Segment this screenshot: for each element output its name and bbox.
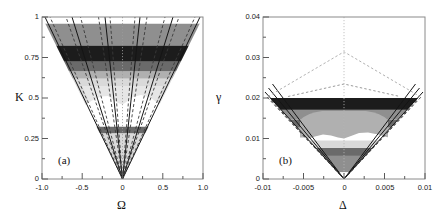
panel-a-ytick-025: 0.25 — [14, 135, 39, 143]
panel-b-inner-lens — [300, 111, 388, 138]
panel-a-ytick-0: 0 — [31, 175, 39, 183]
panel-b-ytick-001: 0.01 — [232, 135, 260, 143]
panel-a-x-axis-label: Ω — [117, 199, 126, 211]
panel-b-y-axis-label: γ — [216, 91, 221, 103]
panel-a-xtick-neg05: -0.5 — [70, 184, 94, 192]
panel-a-ytick-1: 1 — [31, 13, 39, 21]
panel-a-ytick-075: 0.75 — [14, 54, 39, 62]
panel-a-xtick-neg1: -1.0 — [30, 184, 54, 192]
panel-b-ytick-0: 0 — [252, 175, 260, 183]
panel-b-x-axis-label: Δ — [339, 199, 347, 211]
panel-a-xtick-0: 0 — [116, 184, 129, 192]
panel-a-y-axis-label: K — [15, 91, 24, 103]
panel-b-xtick-neg001: -0.01 — [249, 184, 277, 192]
panel-b-xtick-neg0005: -0.005 — [287, 184, 320, 192]
panel-b-ytick-003: 0.03 — [232, 54, 260, 62]
panel-b-xtick-0: 0 — [338, 184, 351, 192]
panel-b-tag: (b) — [279, 155, 292, 166]
panel-b-xtick-001: 0.01 — [412, 184, 438, 192]
panel-b-xtick-0005: 0.005 — [370, 184, 400, 192]
panel-a-tag: (a) — [58, 155, 70, 166]
figure-root: 1 0.75 0.5 0.25 0 -1.0 -0.5 0 0.5 1.0 K … — [0, 0, 448, 224]
panel-b-ytick-004: 0.04 — [232, 13, 260, 21]
panel-b-ytick-002: 0.02 — [232, 94, 260, 102]
panel-a-xtick-1: 1.0 — [192, 184, 214, 192]
panel-a-xtick-05: 0.5 — [152, 184, 174, 192]
